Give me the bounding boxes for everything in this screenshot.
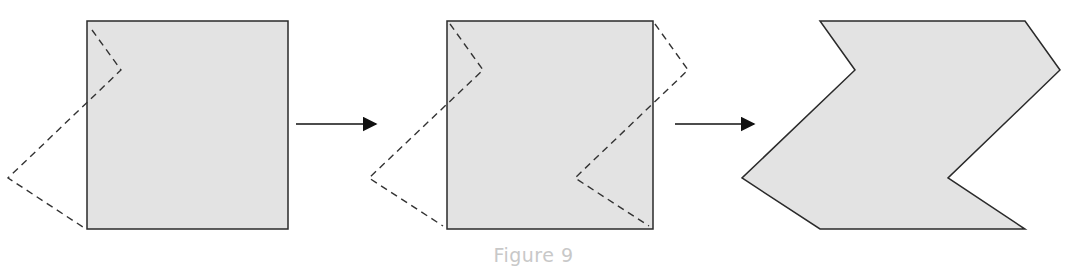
square-shape	[87, 21, 288, 229]
chevron-polygon	[742, 21, 1060, 229]
step-1-square-with-left-cut	[8, 21, 288, 229]
step-2-square-with-both-cuts	[369, 21, 688, 229]
step-3-result-shape	[742, 21, 1060, 229]
figure-caption: Figure 9	[0, 244, 1067, 266]
square-shape	[447, 21, 653, 229]
